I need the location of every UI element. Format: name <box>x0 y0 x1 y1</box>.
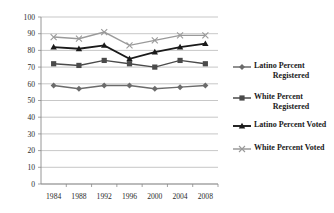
marker-square <box>76 63 81 68</box>
marker-square <box>102 58 107 63</box>
marker-diamond <box>239 64 245 70</box>
legend-label: White Percent Voted <box>254 143 334 153</box>
ytick-label: 90 <box>27 29 35 38</box>
ytick-label: 60 <box>27 80 35 89</box>
ytick-label: 80 <box>27 46 35 55</box>
marker-square <box>152 65 157 70</box>
ytick-label: 0 <box>31 180 35 189</box>
legend-label: White PercentRegistered <box>254 92 328 111</box>
legend-item-white-percent-registered[interactable]: White PercentRegistered <box>232 92 328 111</box>
marker-square <box>51 61 56 66</box>
marker-diamond <box>152 86 158 92</box>
series-white-percent-voted <box>51 29 209 48</box>
legend-label-line2: Registered <box>254 102 328 112</box>
marker-diamond <box>127 82 133 88</box>
legend-swatch-cross-icon <box>232 144 252 154</box>
legend-swatch-square-icon <box>232 93 252 103</box>
xtick-label: 1996 <box>122 192 137 201</box>
series-latino-percent-voted <box>50 41 208 62</box>
marker-diamond <box>51 82 57 88</box>
legend-item-white-percent-voted[interactable]: White Percent Voted <box>232 143 334 154</box>
legend-item-latino-percent-voted[interactable]: Latino Percent Voted <box>232 120 334 131</box>
marker-diamond <box>202 82 208 88</box>
ytick-label: 20 <box>27 146 35 155</box>
xtick-label: 1988 <box>71 192 86 201</box>
ytick-label: 70 <box>27 63 35 72</box>
ytick-label: 10 <box>27 163 35 172</box>
marker-diamond <box>101 82 107 88</box>
legend-swatch-diamond-icon <box>232 62 252 72</box>
ytick-label: 50 <box>27 96 35 105</box>
xtick-label: 2004 <box>172 192 187 201</box>
marker-diamond <box>76 86 82 92</box>
marker-square <box>177 58 182 63</box>
marker-square <box>239 95 244 100</box>
legend-label: Latino PercentRegistered <box>254 61 328 80</box>
legend-label-line2: Registered <box>254 71 328 81</box>
ytick-label: 40 <box>27 113 35 122</box>
ytick-label: 100 <box>24 13 36 22</box>
marker-square <box>203 61 208 66</box>
marker-square <box>127 61 132 66</box>
xtick-label: 2000 <box>147 192 162 201</box>
ytick-label: 30 <box>27 130 35 139</box>
legend-label-line1: Latino Percent <box>254 61 328 71</box>
xtick-label: 1992 <box>97 192 112 201</box>
chart-container: 0102030405060708090100198419881992199620… <box>0 0 334 213</box>
xtick-label: 1984 <box>46 192 61 201</box>
xtick-label: 2008 <box>198 192 213 201</box>
legend-label-line1: White Percent <box>254 92 328 102</box>
marker-diamond <box>177 84 183 90</box>
legend-label: Latino Percent Voted <box>254 120 334 130</box>
legend-swatch-triangle-icon <box>232 121 252 131</box>
legend-item-latino-percent-registered[interactable]: Latino PercentRegistered <box>232 61 328 80</box>
